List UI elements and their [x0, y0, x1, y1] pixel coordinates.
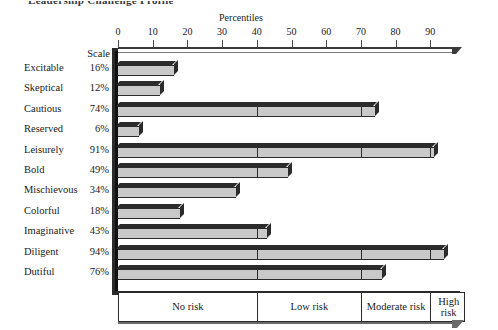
x-tick-label: 90 [418, 26, 442, 37]
row-label-value: 34% [75, 184, 109, 195]
x-tick-mark [396, 40, 397, 47]
bar [118, 106, 375, 117]
risk-band-label: High risk [431, 296, 466, 318]
row-label-name: Excitable [24, 62, 64, 73]
x-axis-tick-labels: 0102030405060708090 [0, 26, 498, 40]
risk-strip-underline [118, 322, 454, 324]
bar-band-divider [361, 107, 362, 116]
x-tick-label: 0 [106, 26, 130, 37]
bar-band-divider [257, 168, 258, 177]
bar-band-divider [257, 107, 258, 116]
row-label-name: Cautious [24, 103, 61, 114]
x-tick-label: 30 [210, 26, 234, 37]
row-label-value: 94% [75, 246, 109, 257]
row-label-name: Leisurely [24, 144, 64, 155]
risk-band-label: Low risk [291, 301, 329, 312]
x-tick-mark [257, 40, 258, 47]
x-tick-label: 70 [349, 26, 373, 37]
risk-band-label: No risk [172, 301, 203, 312]
x-tick-mark [222, 40, 223, 47]
row-label-value: 43% [75, 225, 109, 236]
x-axis-arrow-cap [452, 47, 462, 54]
x-axis-line-shadow [118, 52, 454, 53]
x-tick-label: 60 [314, 26, 338, 37]
bar [118, 126, 139, 137]
row-label-value: 74% [75, 103, 109, 114]
x-tick-mark [292, 40, 293, 47]
x-axis-line [118, 47, 460, 49]
row-label-value: 6% [75, 123, 109, 134]
bar [118, 208, 180, 219]
x-tick-label: 10 [141, 26, 165, 37]
risk-band-cell: Moderate risk [362, 293, 431, 321]
row-label-value: 12% [75, 82, 109, 93]
row-label-name: Reserved [24, 123, 63, 134]
x-tick-label: 50 [280, 26, 304, 37]
row-label-name: Bold [24, 164, 44, 175]
risk-band-label: Moderate risk [367, 301, 426, 312]
axis-title: Percentiles [0, 12, 490, 23]
row-label-name: Colorful [24, 205, 60, 216]
x-tick-mark [326, 40, 327, 47]
row-label-name: Dutiful [24, 266, 54, 277]
x-tick-mark [361, 40, 362, 47]
bar-band-divider [257, 270, 258, 279]
bar-band-divider [257, 229, 258, 238]
x-tick-mark [118, 40, 119, 47]
bar [118, 228, 267, 239]
bar-band-divider [257, 250, 258, 259]
page-title: Leadership Challenge Profile [28, 0, 174, 6]
bar-band-divider [361, 250, 362, 259]
row-label-value: 49% [75, 164, 109, 175]
risk-band-cell: No risk [119, 293, 258, 321]
risk-band-cell: Low risk [258, 293, 362, 321]
row-label-name: Imaginative [24, 225, 74, 236]
row-label-name: Skeptical [24, 82, 63, 93]
row-label-name: Diligent [24, 246, 58, 257]
x-tick-mark [430, 40, 431, 47]
scale-column-header: Scale [87, 48, 110, 59]
x-tick-label: 80 [384, 26, 408, 37]
x-tick-label: 20 [175, 26, 199, 37]
bar [118, 147, 434, 158]
bar [118, 85, 160, 96]
x-tick-mark [153, 40, 154, 47]
bar-band-divider [257, 148, 258, 157]
bar [118, 249, 444, 260]
bar-band-divider [430, 148, 431, 157]
bar-band-divider [361, 270, 362, 279]
row-label-value: 16% [75, 62, 109, 73]
row-label-value: 18% [75, 205, 109, 216]
risk-legend-strip: No riskLow riskModerate riskHigh risk [118, 292, 465, 322]
bar [118, 187, 236, 198]
bar [118, 65, 174, 76]
x-tick-label: 40 [245, 26, 269, 37]
bar [118, 167, 288, 178]
row-label-name: Mischievous [24, 184, 78, 195]
leadership-challenge-profile-chart: Leadership Challenge Profile Percentiles… [0, 0, 498, 330]
row-label-value: 76% [75, 266, 109, 277]
bar-band-divider [430, 250, 431, 259]
bar [118, 269, 382, 280]
bar-band-divider [361, 148, 362, 157]
x-tick-mark [187, 40, 188, 47]
row-label-value: 91% [75, 144, 109, 155]
risk-band-cell: High risk [431, 293, 466, 321]
